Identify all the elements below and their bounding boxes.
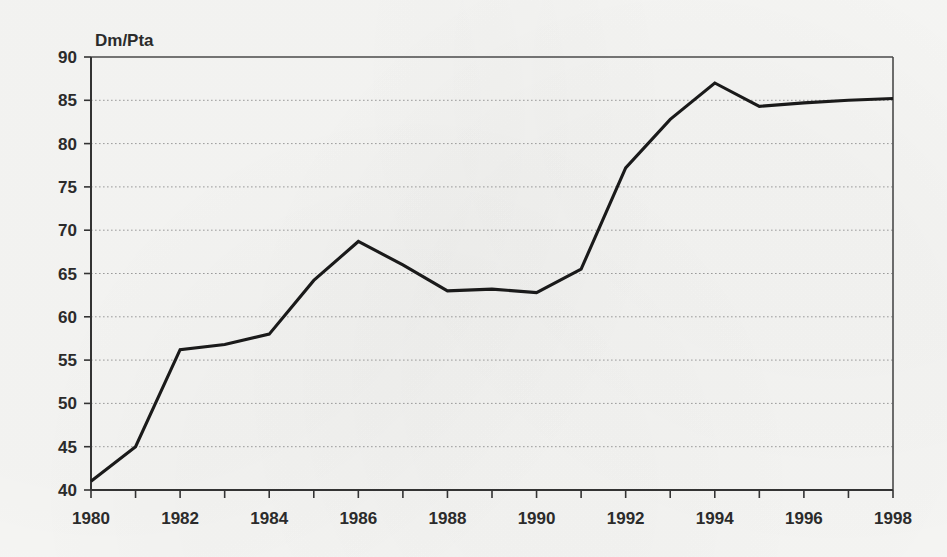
chart-page: 4045505560657075808590 19801982198419861… [0,0,947,557]
x-tick-label: 1980 [72,509,110,528]
y-tick-label: 70 [58,221,77,240]
y-tick-label: 80 [58,135,77,154]
y-tick-label: 40 [58,481,77,500]
y-tick-label: 55 [58,351,77,370]
y-tick-label: 85 [58,91,77,110]
x-tick-label: 1986 [339,509,377,528]
x-axis-ticks [91,490,893,498]
y-tick-label: 50 [58,394,77,413]
x-tick-label: 1998 [874,509,912,528]
line-chart: 4045505560657075808590 19801982198419861… [0,0,947,557]
y-axis-ticks [84,57,91,490]
y-axis-unit-label: Dm/Pta [95,31,154,50]
y-tick-label: 45 [58,438,77,457]
x-tick-label: 1990 [518,509,556,528]
x-tick-label: 1988 [429,509,467,528]
x-tick-labels: 1980198219841986198819901992199419961998 [72,509,912,528]
y-tick-label: 90 [58,48,77,67]
x-tick-label: 1984 [250,509,288,528]
x-tick-label: 1994 [696,509,734,528]
y-tick-labels: 4045505560657075808590 [58,48,77,500]
grid-lines [91,100,893,446]
y-tick-label: 60 [58,308,77,327]
x-tick-label: 1982 [161,509,199,528]
y-tick-label: 75 [58,178,77,197]
data-series-line [91,83,893,481]
y-tick-label: 65 [58,265,77,284]
x-tick-label: 1992 [607,509,645,528]
x-tick-label: 1996 [785,509,823,528]
